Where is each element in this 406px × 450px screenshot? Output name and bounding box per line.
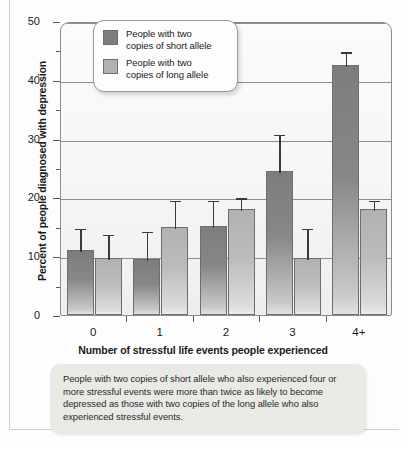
y-tick-20 xyxy=(53,198,60,199)
error-bar-4plus-series1 xyxy=(346,52,347,67)
legend-item-long-allele: People with two copies of long allele xyxy=(103,57,229,80)
y-tick-50 xyxy=(53,22,60,23)
error-bar-0-series1 xyxy=(80,229,81,253)
error-bar-3-series2 xyxy=(307,229,308,260)
error-bar-0-series2 xyxy=(108,235,109,260)
chart-legend: People with two copies of short allele P… xyxy=(93,20,238,92)
error-cap-0-series1 xyxy=(75,229,86,230)
legend-label-long-allele-line2: copies of long allele xyxy=(126,69,208,80)
bar-1-series1 xyxy=(133,259,160,315)
legend-label-short-allele: People with two copies of short allele xyxy=(126,28,212,51)
y-tick-label-40: 40 xyxy=(0,75,40,86)
bar-3-series2 xyxy=(294,258,321,315)
y-tick-label-0: 0 xyxy=(0,310,40,321)
figure-caption: People with two copies of short allele w… xyxy=(50,364,366,433)
y-tick-label-10: 10 xyxy=(0,251,40,262)
error-cap-4plus-series2 xyxy=(369,201,380,202)
y-tick-label-20: 20 xyxy=(0,192,40,203)
x-tick-0 xyxy=(126,316,127,322)
error-cap-3-series2 xyxy=(302,229,313,230)
bar-4plus-series1 xyxy=(332,65,359,315)
x-tick-2 xyxy=(259,316,260,322)
y-tick-label-30: 30 xyxy=(0,134,40,145)
error-bar-3-series1 xyxy=(279,135,280,173)
bar-4plus-series2 xyxy=(360,209,387,315)
y-tick-30 xyxy=(53,140,60,141)
y-tick-label-50: 50 xyxy=(0,16,40,27)
legend-label-long-allele-line1: People with two xyxy=(126,57,192,68)
legend-label-short-allele-line2: copies of short allele xyxy=(126,40,212,51)
bar-2-series2 xyxy=(228,209,255,315)
x-tick-3 xyxy=(326,316,327,322)
x-tick-label-2: 2 xyxy=(196,326,256,338)
bar-3-series1 xyxy=(266,171,293,315)
x-tick-label-0: 0 xyxy=(63,326,123,338)
y-tick-0 xyxy=(53,316,60,317)
error-cap-3-series1 xyxy=(274,135,285,136)
legend-swatch-short-allele-icon xyxy=(103,30,118,45)
error-cap-2-series1 xyxy=(208,201,219,202)
x-tick-label-3: 3 xyxy=(262,326,322,338)
bar-1-series2 xyxy=(161,227,188,315)
error-bar-1-series2 xyxy=(175,201,176,229)
error-bar-2-series2 xyxy=(241,198,242,211)
y-tick-10 xyxy=(53,257,60,258)
x-tick-label-4plus: 4+ xyxy=(329,326,389,338)
figure-container: Percent of people diagnosed with depress… xyxy=(0,0,406,450)
page-left-rule xyxy=(9,0,10,430)
bar-0-series1 xyxy=(67,250,94,315)
legend-label-long-allele: People with two copies of long allele xyxy=(126,57,208,80)
x-axis-title: Number of stressful life events people e… xyxy=(0,344,406,356)
error-cap-1-series2 xyxy=(170,201,181,202)
bar-0-series2 xyxy=(95,258,122,315)
x-tick-1 xyxy=(193,316,194,322)
error-cap-0-series2 xyxy=(103,235,114,236)
error-cap-2-series2 xyxy=(236,198,247,199)
error-cap-4plus-series1 xyxy=(341,52,352,53)
error-bar-1-series1 xyxy=(147,232,148,261)
bar-2-series1 xyxy=(200,226,227,315)
error-cap-1-series1 xyxy=(142,232,153,233)
error-bar-4plus-series2 xyxy=(374,201,375,212)
legend-swatch-long-allele-icon xyxy=(103,59,118,74)
x-tick-label-1: 1 xyxy=(130,326,190,338)
y-axis-title: Percent of people diagnosed with depress… xyxy=(36,21,48,321)
error-bar-2-series1 xyxy=(213,201,214,228)
legend-item-short-allele: People with two copies of short allele xyxy=(103,28,229,51)
y-tick-40 xyxy=(53,81,60,82)
legend-label-short-allele-line1: People with two xyxy=(126,28,192,39)
